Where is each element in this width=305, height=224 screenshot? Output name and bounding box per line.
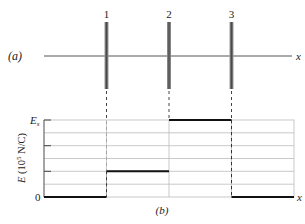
sheet-3-label: 3 [229, 8, 235, 20]
sheet-3: 3 [229, 8, 235, 89]
sheet-1: 1 [104, 8, 110, 89]
part-a: (a) x 1 2 3 [8, 8, 301, 89]
sheet-1-label: 1 [104, 8, 110, 20]
y-ticks [44, 120, 51, 171]
charged-sheets-diagram: (a) x 1 2 3 [0, 0, 305, 224]
part-b-plot: Es 0 E (105 N/C) x (b) [15, 114, 302, 217]
sheet-2-label: 2 [166, 8, 172, 20]
gridlines [44, 120, 294, 197]
sheet-2: 2 [166, 8, 172, 89]
y-tick-zero: 0 [35, 191, 41, 203]
x-axis-a-label: x [295, 50, 301, 62]
y-axis-label: E (105 N/C) [15, 132, 28, 184]
y-tick-es: Es [29, 114, 40, 128]
part-b-label: (b) [156, 204, 169, 217]
part-a-label: (a) [8, 49, 22, 63]
x-axis-b-label: x [296, 191, 302, 203]
